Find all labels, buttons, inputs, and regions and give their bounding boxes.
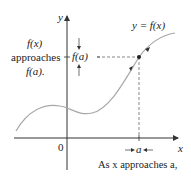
left-annotation-line-2: approaches bbox=[11, 52, 60, 63]
left-annotation-line-1: f(x) bbox=[27, 38, 42, 49]
right-arrow-icon bbox=[131, 148, 135, 152]
limit-diagram: y x 0 y = f(x) f(a) a f(x) approaches f(… bbox=[0, 0, 191, 181]
fa-label: f(a) bbox=[72, 51, 88, 62]
y-axis-label: y bbox=[58, 12, 63, 23]
bottom-annotation: As x approaches a, bbox=[98, 160, 177, 171]
left-annotation-line-3: f(a). bbox=[26, 66, 45, 77]
left-arrow-icon bbox=[143, 148, 147, 152]
x-axis-label: x bbox=[178, 143, 183, 154]
a-label: a bbox=[136, 144, 142, 155]
origin-label: 0 bbox=[58, 142, 64, 153]
curve-label: y = f(x) bbox=[132, 20, 165, 31]
up-arrow-icon bbox=[77, 64, 81, 68]
limit-point bbox=[137, 55, 141, 59]
